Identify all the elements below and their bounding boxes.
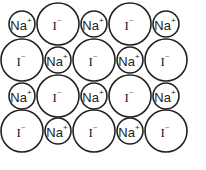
ion-charge: + (171, 16, 176, 25)
ion-charge: + (99, 16, 104, 25)
ion-charge: + (135, 52, 140, 61)
ion-charge: + (27, 88, 32, 97)
iodide-ion: I− (1, 110, 43, 152)
ion-charge: + (171, 88, 176, 97)
iodide-ion: I− (145, 39, 187, 81)
nai-lattice-diagram: I−I−I−I−I−I−I−I−I−I−Na+Na+Na+Na+Na+Na+Na… (0, 0, 206, 170)
sodium-ion: Na+ (81, 83, 107, 109)
ion-charge: − (21, 52, 26, 61)
sodium-ion: Na+ (153, 11, 179, 37)
iodide-ion: I− (73, 110, 115, 152)
ion-charge: − (165, 52, 170, 61)
ion-charge: + (135, 123, 140, 132)
ion-charge: + (63, 123, 68, 132)
ion-charge: − (57, 16, 62, 25)
iodide-ion: I− (37, 3, 79, 45)
sodium-ion: Na+ (153, 83, 179, 109)
ion-charge: − (93, 52, 98, 61)
iodide-ion: I− (73, 39, 115, 81)
ion-charge: − (165, 123, 170, 132)
iodide-ion: I− (37, 75, 79, 117)
iodide-ion: I− (109, 75, 151, 117)
ion-charge: − (93, 123, 98, 132)
sodium-ion: Na+ (45, 47, 71, 73)
iodide-ion: I− (145, 110, 187, 152)
ion-charge: − (129, 88, 134, 97)
iodide-ion: I− (1, 39, 43, 81)
sodium-ion: Na+ (81, 11, 107, 37)
sodium-ion: Na+ (9, 83, 35, 109)
sodium-ion: Na+ (117, 47, 143, 73)
ion-charge: + (63, 52, 68, 61)
ion-charge: − (21, 123, 26, 132)
sodium-ion: Na+ (45, 118, 71, 144)
sodium-ion: Na+ (117, 118, 143, 144)
ion-charge: − (129, 16, 134, 25)
ion-charge: − (57, 88, 62, 97)
ion-charge: + (99, 88, 104, 97)
sodium-ion: Na+ (9, 11, 35, 37)
iodide-ion: I− (109, 3, 151, 45)
ion-charge: + (27, 16, 32, 25)
